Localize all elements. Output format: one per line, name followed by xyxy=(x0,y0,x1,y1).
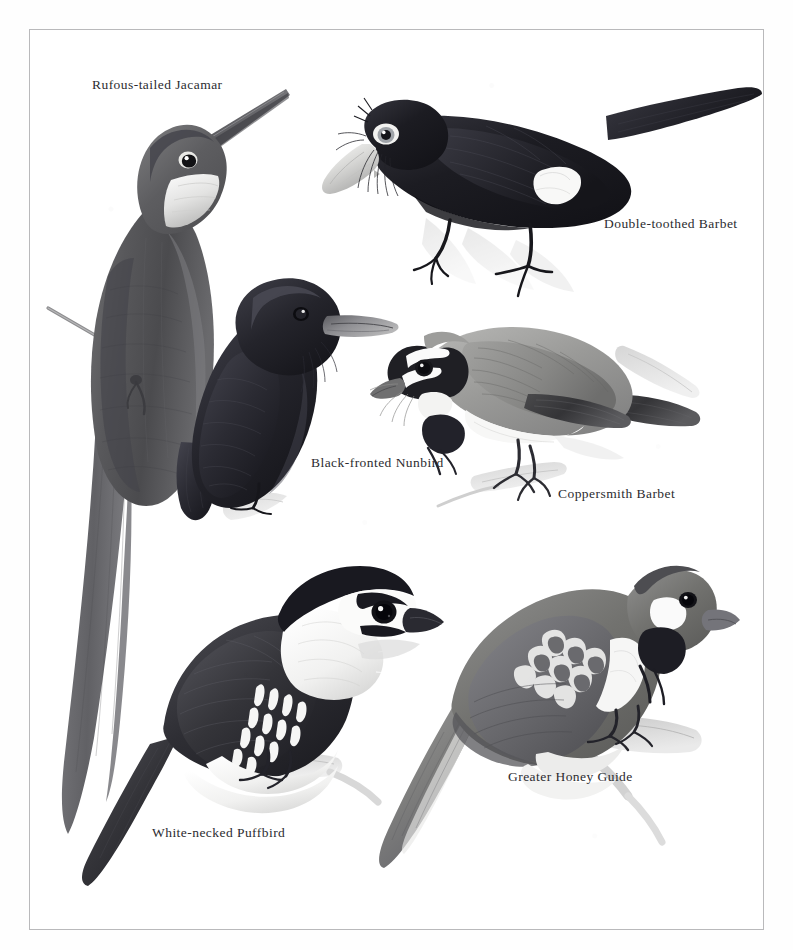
bird-illustration-greater-honey-guide xyxy=(378,538,718,888)
species-label-double-toothed-barbet: Double-toothed Barbet xyxy=(604,216,738,231)
jacamar-head xyxy=(137,125,227,234)
puffbird-tail xyxy=(82,736,178,886)
species-label-rufous-tailed-jacamar: Rufous-tailed Jacamar xyxy=(92,77,223,92)
species-label-black-fronted-nunbird: Black-fronted Nunbird xyxy=(311,455,444,470)
barbet-tail xyxy=(606,87,762,140)
caption-coppersmith-barbet: Coppersmith Barbet xyxy=(558,487,675,501)
bird-illustration-coppersmith-barbet xyxy=(378,300,708,540)
honeyguide-eye xyxy=(679,592,697,608)
species-label-white-necked-puffbird: White-necked Puffbird xyxy=(152,825,285,840)
caption-greater-honey-guide: Greater Honey Guide xyxy=(508,770,633,784)
caption-double-toothed-barbet: Double-toothed Barbet xyxy=(604,217,738,231)
field-guide-plate: Rufous-tailed Jacamar xyxy=(0,0,793,950)
nunbird-eye xyxy=(293,307,309,321)
barbet-eye xyxy=(373,124,399,145)
coppersmith-barbet-svg xyxy=(378,300,708,540)
species-label-greater-honey-guide: Greater Honey Guide xyxy=(508,769,633,784)
honeyguide-shadow-wash xyxy=(358,640,420,660)
species-label-coppersmith-barbet: Coppersmith Barbet xyxy=(558,486,675,501)
caption-white-necked-puffbird: White-necked Puffbird xyxy=(152,826,285,840)
caption-rufous-tailed-jacamar: Rufous-tailed Jacamar xyxy=(92,78,223,92)
caption-black-fronted-nunbird: Black-fronted Nunbird xyxy=(311,456,444,470)
coppersmith-eye xyxy=(415,360,433,377)
greater-honey-guide-svg xyxy=(378,538,718,888)
jacamar-eye xyxy=(179,152,198,169)
